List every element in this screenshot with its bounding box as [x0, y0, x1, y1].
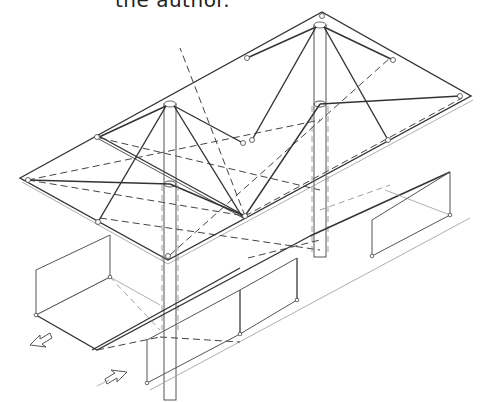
arrow-in-icon	[97, 370, 127, 386]
isometric-canopy-drawing	[0, 0, 480, 402]
arrow-out-icon	[30, 333, 52, 347]
column-left	[28, 101, 245, 400]
roof-plane	[20, 12, 473, 264]
column-right	[245, 22, 460, 257]
wall-panels	[34, 172, 452, 385]
